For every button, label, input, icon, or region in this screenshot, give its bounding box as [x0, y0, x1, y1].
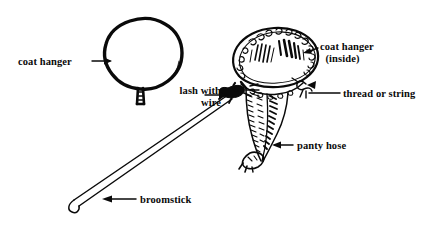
panty-hose-gathered-tail-group	[239, 83, 303, 172]
label-broomstick: broomstick	[140, 194, 192, 206]
panty-hose-toe-knot	[239, 152, 264, 172]
label-coat-hanger-left: coat hanger	[18, 56, 72, 68]
panty-hose-tail-hatching-center	[257, 98, 264, 142]
label-coat-hanger-inside-line2: (inside)	[325, 53, 359, 64]
panty-hose-bag-group	[233, 28, 318, 87]
label-lash-with-wire-line2: wire	[201, 97, 221, 108]
leader-broomstick	[102, 196, 136, 203]
panty-hose-shading	[255, 40, 300, 62]
diagram-canvas: coat hanger lash withwire coat hanger (i…	[0, 0, 446, 231]
label-thread-or-string: thread or string	[343, 88, 415, 100]
diagram-artwork	[0, 0, 446, 231]
label-lash-with-wire-line1: lash with	[180, 85, 221, 96]
leader-panty-hose	[272, 142, 293, 149]
label-lash-with-wire: lash withwire	[163, 85, 221, 109]
label-coat-hanger-inside-line1: coat hanger	[320, 41, 374, 52]
leader-coat-hanger-left	[92, 58, 112, 65]
leader-coat-hanger-inside	[303, 48, 318, 54]
panty-hose-tail-fold	[262, 94, 268, 161]
panty-hose-tail-hatching-right	[264, 96, 277, 149]
panty-hose-rim	[233, 28, 318, 87]
label-coat-hanger-inside: coat hanger (inside)	[320, 41, 374, 65]
broomstick-rounded-end	[69, 200, 79, 213]
label-panty-hose: panty hose	[297, 140, 346, 152]
coat-hanger-loop-group	[105, 19, 182, 90]
